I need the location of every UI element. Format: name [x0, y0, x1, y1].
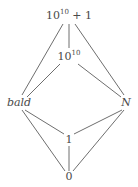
edge-N-zero	[73, 110, 124, 171]
node-ten10: 1010	[58, 51, 81, 63]
node-one: 1	[66, 134, 73, 146]
node-bald: bald	[7, 97, 31, 109]
edge-bald-zero	[22, 110, 65, 171]
node-top-suffix: + 1	[69, 9, 92, 22]
diagram-edges	[0, 0, 138, 187]
node-zero: 0	[66, 171, 73, 183]
node-top: 1010 + 1	[46, 10, 92, 22]
edge-N-one	[74, 110, 122, 134]
node-N: N	[121, 97, 131, 109]
edge-top-N	[75, 24, 124, 95]
node-top-base: 10	[46, 9, 60, 22]
node-ten10-base: 10	[58, 50, 72, 63]
node-ten10-exponent: 10	[72, 49, 81, 57]
node-top-exponent: 10	[60, 8, 69, 16]
edge-ten10-bald	[27, 64, 60, 97]
